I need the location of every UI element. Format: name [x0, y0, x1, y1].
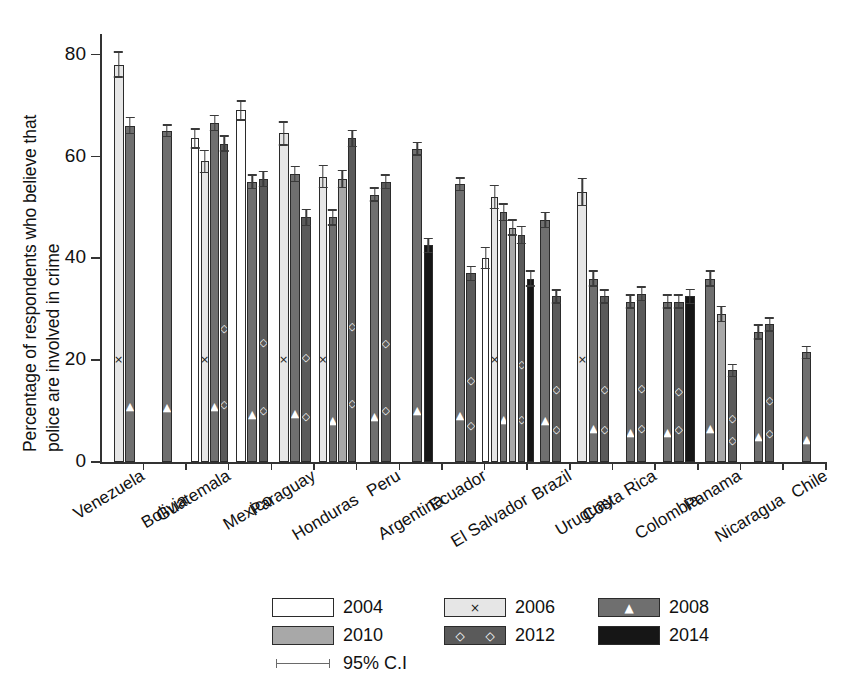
diamond-icon: ◇: [455, 629, 464, 643]
error-bar: [630, 294, 631, 308]
error-bar: [678, 294, 679, 308]
bar: ◇◇: [600, 296, 610, 462]
error-bar: [283, 121, 284, 145]
x-axis-label: Brazil: [528, 466, 575, 505]
error-bar: [604, 289, 605, 303]
triangle-icon: ▲: [210, 401, 218, 412]
error-bar: [593, 270, 594, 286]
triangle-icon: ▲: [329, 415, 337, 426]
error-bar: [305, 209, 306, 226]
bar: [717, 314, 727, 462]
x-marker-icon: ×: [491, 354, 498, 365]
triangle-icon: ▲: [370, 411, 378, 422]
error-bar: [417, 142, 418, 156]
diamond-icon: ◇: [302, 352, 310, 363]
legend-label-2010: 2010: [343, 625, 383, 646]
error-bar: [166, 124, 167, 137]
diamond-icon: ◇: [674, 386, 682, 397]
diamond-icon: ◇: [348, 321, 356, 332]
triangle-icon: ▲: [456, 410, 464, 421]
error-bar: [428, 238, 429, 253]
triangle-icon: ▲: [541, 415, 549, 426]
x-axis-label: Nicaragua: [712, 490, 789, 547]
legend-item-2008: ▲2008: [598, 597, 709, 618]
bar: ◇◇: [674, 302, 684, 463]
bar: ◇◇: [466, 273, 476, 462]
diamond-icon: ◇: [728, 435, 736, 446]
x-axis-label: Paraguay: [247, 466, 320, 521]
legend-label-2008: 2008: [669, 597, 709, 618]
diamond-icon: ◇: [382, 405, 390, 416]
error-bar: [214, 115, 215, 131]
bar: ◇◇: [552, 296, 562, 462]
error-bar: [352, 130, 353, 147]
x-marker-icon: ×: [114, 354, 123, 365]
bar: ◇◇: [348, 138, 356, 462]
error-bar: [758, 324, 759, 339]
error-bar: [263, 171, 264, 187]
x-marker-icon: ×: [201, 354, 209, 365]
y-tick: 40: [91, 257, 100, 259]
bar: [527, 279, 534, 462]
error-bar: [667, 294, 668, 308]
diamond-icon: ◇: [600, 384, 608, 395]
x-marker-icon: ×: [279, 354, 288, 365]
error-bar: [769, 317, 770, 331]
error-bar: [294, 166, 295, 182]
bar: ▲: [210, 123, 218, 462]
bar: ▲: [540, 220, 550, 462]
legend-label-ci: 95% C.I: [343, 653, 407, 674]
bar: ◇◇: [728, 370, 738, 462]
diamond-icon: ◇: [637, 383, 645, 394]
bar: ×: [279, 133, 289, 462]
error-bar: [721, 306, 722, 322]
y-tick-label: 80: [65, 43, 86, 65]
diamond-icon: ◇: [382, 338, 390, 349]
bar: ◇◇: [637, 294, 647, 462]
y-axis-line: [100, 34, 102, 462]
bar: ▲: [626, 302, 636, 463]
bar: [424, 245, 434, 462]
bar: [338, 179, 346, 462]
error-bar: [194, 128, 195, 148]
triangle-icon: ▲: [500, 414, 507, 425]
triangle-icon: ▲: [589, 423, 597, 434]
y-tick-label: 20: [65, 348, 86, 370]
triangle-icon: ▲: [802, 434, 810, 445]
diamond-icon: ◇: [765, 428, 773, 439]
error-bar: [224, 135, 225, 151]
bar: ◇◇: [301, 217, 311, 462]
error-bar: [240, 100, 241, 120]
x-marker-icon: ×: [319, 354, 327, 365]
legend-swatch-2004: [272, 598, 334, 617]
legend-item-2012: ◇◇2012: [444, 625, 555, 646]
bar: ×: [577, 192, 587, 462]
bar: ▲: [162, 131, 172, 462]
legend-swatch-2008: ▲: [598, 598, 660, 617]
error-bar: [544, 212, 545, 228]
legend-item-2010: 2010: [272, 625, 383, 646]
error-bar: [689, 289, 690, 304]
y-tick: 80: [91, 54, 100, 56]
bar: ▲: [412, 149, 422, 462]
bar: ▲: [455, 184, 465, 462]
error-bar: [556, 289, 557, 303]
y-tick: 20: [91, 359, 100, 361]
bar: [509, 228, 516, 462]
x-axis-label: Peru: [363, 466, 404, 502]
legend-swatch-2012: ◇◇: [444, 626, 506, 645]
triangle-icon: ▲: [413, 405, 421, 416]
confidence-interval-icon: [272, 654, 334, 673]
error-bar: [470, 266, 471, 281]
diamond-icon: ◇: [220, 399, 228, 410]
legend-item-ci: 95% C.I: [272, 653, 407, 674]
bar: ▲: [247, 182, 257, 462]
bar: ▲: [290, 174, 300, 462]
triangle-icon: ▲: [624, 601, 633, 615]
y-tick: 0: [91, 461, 100, 463]
error-bar: [709, 270, 710, 286]
legend-swatch-2010: [272, 626, 334, 645]
triangle-icon: ▲: [248, 409, 256, 420]
bar: ▲: [500, 212, 507, 462]
diamond-icon: ◇: [674, 424, 682, 435]
